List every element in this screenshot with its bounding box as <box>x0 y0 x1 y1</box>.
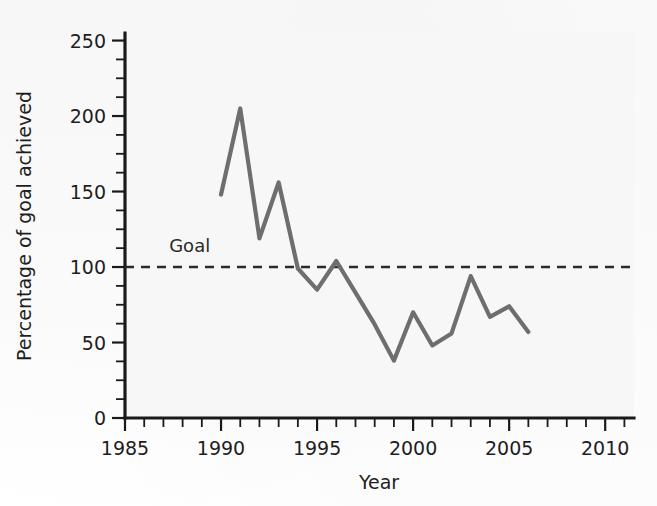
chart-figure: 050100150200250 198519901995200020052010… <box>0 0 657 506</box>
x-axis-tick-label: 1995 <box>293 437 341 459</box>
x-axis-title: Year <box>358 471 399 493</box>
line-chart: 050100150200250 198519901995200020052010… <box>0 0 657 506</box>
x-axis-tick-label: 2005 <box>485 437 533 459</box>
x-axis-tick-label: 2000 <box>389 437 437 459</box>
x-axis-major-ticks <box>125 418 605 431</box>
y-axis-tick-labels: 050100150200250 <box>70 30 106 429</box>
x-axis-tick-labels: 198519901995200020052010 <box>101 437 630 459</box>
y-axis-tick-label: 50 <box>82 332 106 354</box>
x-axis-tick-label: 1985 <box>101 437 149 459</box>
goal-annotation-label: Goal <box>169 235 210 256</box>
x-axis-tick-label: 2010 <box>581 437 629 459</box>
y-axis-tick-label: 250 <box>70 30 106 52</box>
y-axis-tick-label: 100 <box>70 256 106 278</box>
x-axis-tick-label: 1990 <box>197 437 245 459</box>
y-axis-tick-label: 200 <box>70 105 106 127</box>
plot-area-background <box>125 33 634 418</box>
y-axis-tick-label: 0 <box>94 407 106 429</box>
y-axis-title: Percentage of goal achieved <box>13 91 35 361</box>
y-axis-tick-label: 150 <box>70 181 106 203</box>
